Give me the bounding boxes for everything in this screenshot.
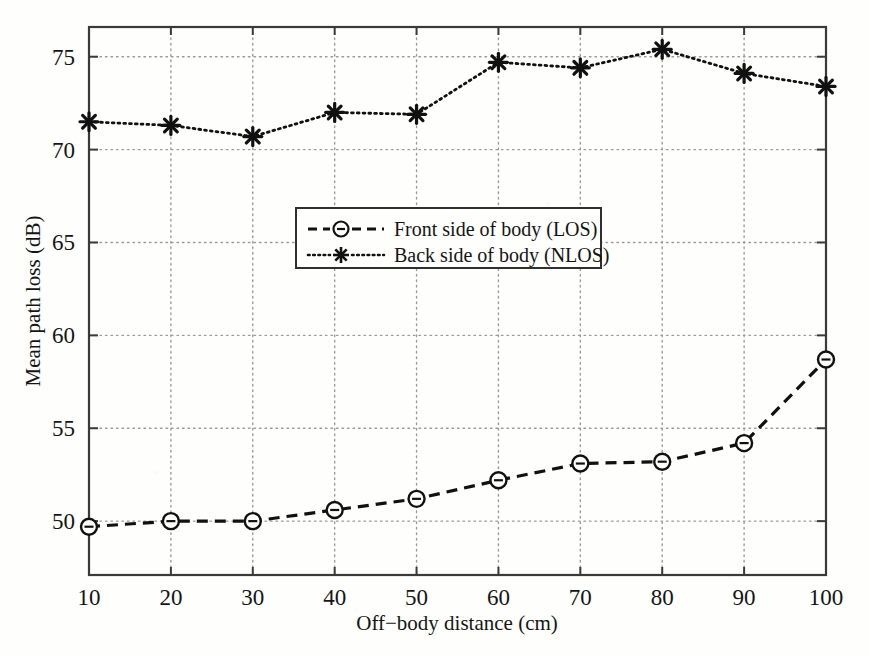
data-point-circle-icon: [572, 456, 588, 472]
x-tick-label: 100: [809, 585, 844, 610]
legend-label-front-side: Front side of body (LOS): [394, 218, 597, 241]
x-axis-title: Off−body distance (cm): [356, 611, 558, 635]
y-tick-label: 60: [52, 323, 75, 348]
x-tick-label: 60: [487, 585, 510, 610]
x-tick-label: 30: [241, 585, 264, 610]
figure-canvas: 102030405060708090100 505560657075 Off−b…: [0, 0, 869, 656]
data-point-asterisk-icon: [162, 116, 180, 134]
data-point-asterisk-icon: [326, 103, 344, 121]
data-point-asterisk-icon: [817, 77, 835, 95]
data-point-circle-icon: [654, 454, 670, 470]
y-tick-label: 65: [52, 230, 75, 255]
y-tick-label: 70: [52, 138, 75, 163]
x-tick-label: 50: [405, 585, 428, 610]
data-point-circle-icon: [818, 352, 834, 368]
data-point-circle-icon: [245, 513, 261, 529]
y-tick-label: 50: [52, 509, 75, 534]
legend-label-back-side: Back side of body (NLOS): [394, 244, 610, 267]
x-tick-label: 20: [159, 585, 182, 610]
y-axis-title: Mean path loss (dB): [21, 216, 45, 387]
data-point-asterisk-icon: [653, 40, 671, 58]
chart-svg: 102030405060708090100 505560657075 Off−b…: [0, 0, 869, 656]
data-point-asterisk-icon: [735, 64, 753, 82]
legend[interactable]: Front side of body (LOS) Back side of bo…: [296, 208, 610, 268]
data-point-circle-icon: [736, 435, 752, 451]
x-tick-label: 40: [323, 585, 346, 610]
data-point-asterisk-icon: [244, 128, 262, 146]
legend-marker-asterisk-icon: [333, 247, 349, 263]
x-tick-label: 80: [651, 585, 674, 610]
data-point-circle-icon: [163, 513, 179, 529]
data-point-circle-icon: [490, 472, 506, 488]
data-point-asterisk-icon: [408, 105, 426, 123]
data-point-asterisk-icon: [571, 59, 589, 77]
data-point-circle-icon: [327, 502, 343, 518]
data-point-circle-icon: [409, 491, 425, 507]
data-point-asterisk-icon: [489, 53, 507, 71]
y-tick-label: 55: [52, 416, 75, 441]
data-point-asterisk-icon: [80, 113, 98, 131]
y-tick-label: 75: [52, 45, 75, 70]
x-tick-label: 70: [569, 585, 592, 610]
data-point-circle-icon: [81, 519, 97, 535]
figure-background: [0, 0, 869, 656]
x-tick-label: 10: [78, 585, 101, 610]
x-tick-label: 90: [733, 585, 756, 610]
